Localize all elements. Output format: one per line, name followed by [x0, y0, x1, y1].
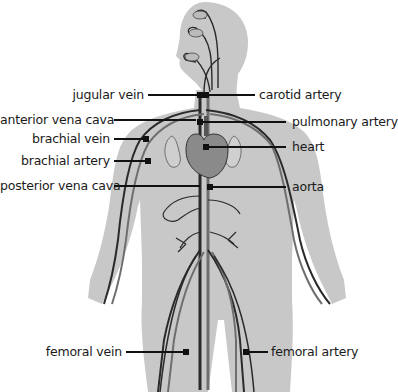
label-heart: heart — [292, 140, 324, 154]
leader-dot-brachial-vein — [144, 137, 148, 141]
label-jugular-vein: jugular vein — [48, 88, 144, 102]
label-aorta: aorta — [292, 180, 324, 194]
label-femoral-vein: femoral vein — [30, 345, 122, 359]
leader-dot-brachial-artery — [146, 159, 150, 163]
label-pulmonary-artery: pulmonary artery — [292, 115, 398, 129]
leader-dot-carotid-artery — [204, 93, 208, 97]
leader-dot-aorta — [208, 185, 212, 189]
leader-dot-femoral-vein — [184, 350, 188, 354]
label-brachial-vein: brachial vein — [0, 132, 110, 146]
label-brachial-artery: brachial artery — [0, 154, 110, 168]
label-femoral-artery: femoral artery — [271, 345, 358, 359]
leader-dot-heart — [204, 145, 208, 149]
label-posterior-vena-cava: posterior vena cava — [0, 179, 110, 193]
label-anterior-vena-cava: anterior vena cava — [0, 113, 110, 127]
leader-dot-femoral-artery — [244, 350, 248, 354]
leader-dot-pulmonary-artery — [198, 120, 202, 124]
label-carotid-artery: carotid artery — [259, 88, 341, 102]
leader-dot-jugular-vein — [198, 93, 202, 97]
